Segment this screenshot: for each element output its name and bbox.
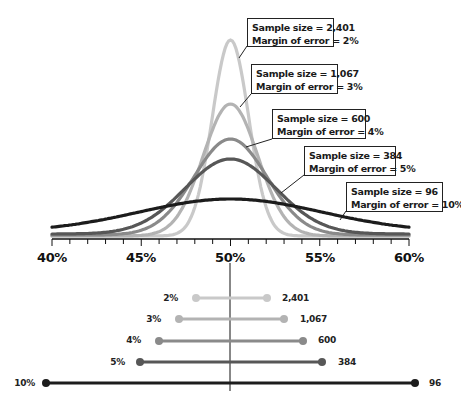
x-tick-label-40: 40% <box>37 250 67 265</box>
annotation-600: Sample size = 600 Margin of error = 4% <box>272 109 366 139</box>
annotation-line2: Margin of error = 5% <box>309 162 391 175</box>
annotation-96: Sample size = 96 Margin of error = 10% <box>346 182 443 212</box>
annotation-2401: Sample size = 2,401 Margin of error = 2% <box>247 18 334 47</box>
x-tick-label-55: 55% <box>305 250 335 265</box>
x-axis <box>52 239 409 246</box>
x-tick-label-50: 50% <box>215 250 245 265</box>
interval-endpoint-high <box>263 294 271 302</box>
leader-line <box>281 175 304 193</box>
bar-n-label-384: 384 <box>338 357 356 367</box>
bar-moe-label-2: 2% <box>163 293 178 303</box>
interval-endpoint-low <box>175 315 183 323</box>
interval-endpoint-high <box>411 379 419 387</box>
leader-line <box>246 139 272 147</box>
interval-endpoint-low <box>192 294 200 302</box>
annotation-line1: Sample size = 384 <box>309 149 391 162</box>
leader-line <box>239 46 247 58</box>
x-tick-label-60: 60% <box>394 250 424 265</box>
bar-moe-label-10: 10% <box>14 378 35 388</box>
annotation-line1: Sample size = 1,067 <box>256 67 333 80</box>
bar-moe-label-5: 5% <box>110 357 125 367</box>
interval-endpoint-low <box>155 337 163 345</box>
interval-endpoint-high <box>299 337 307 345</box>
bar-n-label-600: 600 <box>318 335 336 345</box>
annotation-line2: Margin of error = 3% <box>256 80 333 93</box>
annotation-384: Sample size = 384 Margin of error = 5% <box>304 146 396 176</box>
annotation-1067: Sample size = 1,067 Margin of error = 3% <box>251 64 338 94</box>
annotation-line2: Margin of error = 4% <box>277 125 361 138</box>
annotation-line2: Margin of error = 2% <box>252 34 329 47</box>
bar-n-label-2401: 2,401 <box>282 293 309 303</box>
annotation-line1: Sample size = 600 <box>277 112 361 125</box>
bar-moe-label-4: 4% <box>126 335 141 345</box>
bar-n-label-1067: 1,067 <box>300 314 327 324</box>
annotation-line2: Margin of error = 10% <box>351 198 438 211</box>
interval-endpoint-low <box>136 358 144 366</box>
annotation-line1: Sample size = 96 <box>351 185 438 198</box>
interval-endpoint-high <box>280 315 288 323</box>
interval-endpoint-low <box>42 379 50 387</box>
bar-n-label-96: 96 <box>429 378 441 388</box>
interval-endpoint-high <box>318 358 326 366</box>
annotation-line1: Sample size = 2,401 <box>252 21 329 34</box>
x-tick-label-45: 45% <box>126 250 156 265</box>
bar-moe-label-3: 3% <box>146 314 161 324</box>
interval-bars <box>42 263 419 391</box>
